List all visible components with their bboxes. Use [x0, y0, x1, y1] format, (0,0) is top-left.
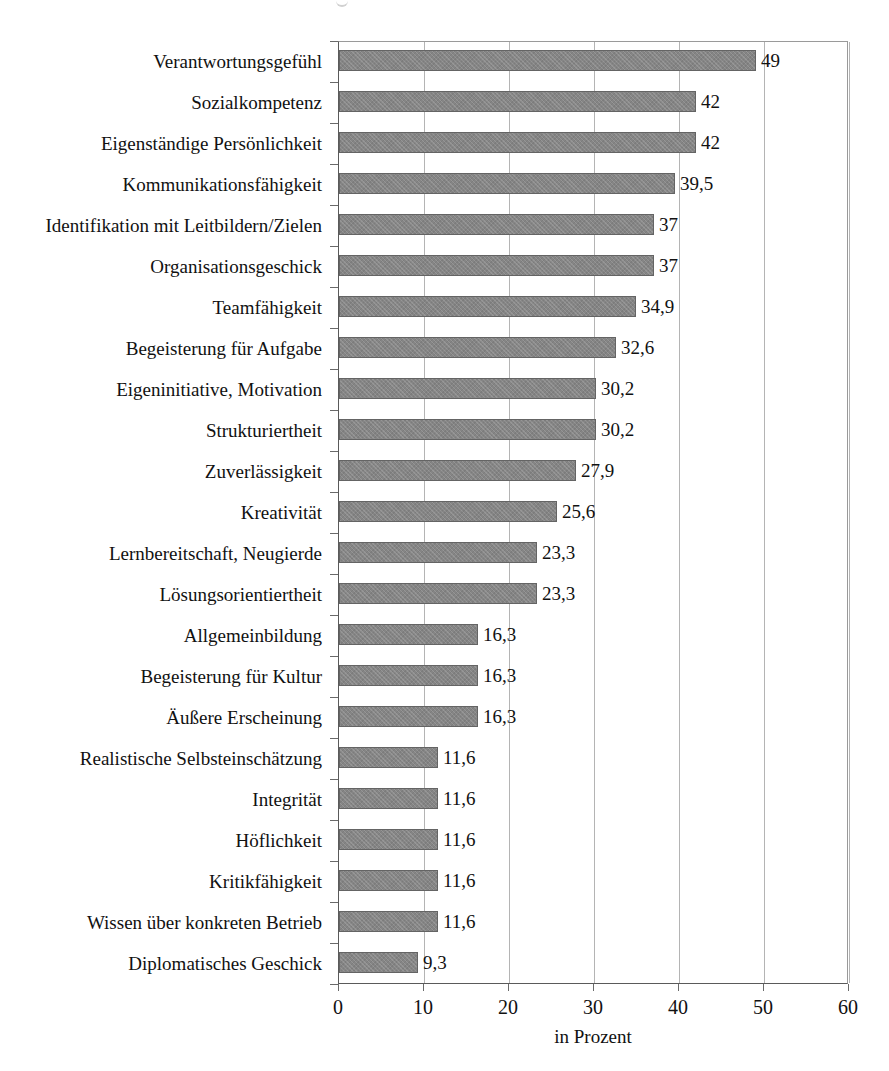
y-axis-tick [330, 820, 338, 821]
bar [339, 214, 654, 235]
y-axis-tick [330, 738, 338, 739]
y-axis-tick [330, 328, 338, 329]
bar [339, 501, 557, 522]
y-axis-label: Allgemeinbildung [0, 615, 330, 656]
bar-value-label: 30,2 [596, 419, 634, 440]
bar-value-label: 11,6 [438, 788, 476, 809]
bar-value-label: 37 [654, 214, 678, 235]
bar [339, 378, 596, 399]
x-axis-tick [338, 984, 339, 991]
bar-value-label: 42 [696, 91, 720, 112]
bar-row: 34,9 [339, 288, 847, 329]
y-axis-label: Lernbereitschaft, Neugierde [0, 533, 330, 574]
x-axis-tick-label: 30 [583, 994, 603, 1020]
y-axis-label: Diplomatisches Geschick [0, 943, 330, 984]
bar [339, 747, 438, 768]
bar [339, 50, 756, 71]
x-axis-tick-label: 40 [668, 994, 688, 1020]
y-axis-label: Verantwortungsgefühl [0, 41, 330, 82]
bar-row: 25,6 [339, 493, 847, 534]
bar-row: 42 [339, 124, 847, 165]
bar-row: 11,6 [339, 862, 847, 903]
bar-row: 9,3 [339, 944, 847, 985]
y-axis-tick [330, 902, 338, 903]
bar-value-label: 39,5 [675, 173, 713, 194]
bar [339, 665, 478, 686]
bar-value-label: 16,3 [478, 665, 516, 686]
bar [339, 829, 438, 850]
y-axis-label: Begeisterung für Kultur [0, 656, 330, 697]
bar-row: 27,9 [339, 452, 847, 493]
bar [339, 542, 537, 563]
bar-value-label: 30,2 [596, 378, 634, 399]
y-axis-label: Eigenständige Persönlichkeit [0, 123, 330, 164]
bar-value-label: 11,6 [438, 829, 476, 850]
bar [339, 460, 576, 481]
scan-artifact [336, 0, 348, 7]
y-axis-tick [330, 533, 338, 534]
x-axis-title: in Prozent [338, 1026, 848, 1048]
y-axis-tick [330, 123, 338, 124]
bar-row: 16,3 [339, 616, 847, 657]
y-axis-tick [330, 615, 338, 616]
bar-row: 32,6 [339, 329, 847, 370]
y-axis-tick [330, 82, 338, 83]
chart-page: VerantwortungsgefühlSozialkompetenzEigen… [0, 0, 889, 1071]
bar-value-label: 23,3 [537, 542, 575, 563]
y-axis-tick [330, 779, 338, 780]
bar-value-label: 9,3 [418, 952, 447, 973]
bar-row: 11,6 [339, 821, 847, 862]
y-axis-tick [330, 205, 338, 206]
y-axis-tick [330, 656, 338, 657]
y-axis-label: Realistische Selbsteinschätzung [0, 738, 330, 779]
y-axis-tick [330, 369, 338, 370]
bar-row: 30,2 [339, 411, 847, 452]
bar [339, 624, 478, 645]
bar [339, 173, 675, 194]
bar-value-label: 11,6 [438, 870, 476, 891]
bar-row: 16,3 [339, 657, 847, 698]
bar-row: 49 [339, 42, 847, 83]
bar [339, 583, 537, 604]
y-axis-label: Kommunikationsfähigkeit [0, 164, 330, 205]
bar-value-label: 49 [756, 50, 780, 71]
bar-value-label: 42 [696, 132, 720, 153]
bar-row: 23,3 [339, 575, 847, 616]
bar [339, 706, 478, 727]
bar-value-label: 34,9 [636, 296, 674, 317]
bar-value-label: 32,6 [616, 337, 654, 358]
y-axis-label: Eigeninitiative, Motivation [0, 369, 330, 410]
bar [339, 337, 616, 358]
x-axis-tick [593, 984, 594, 991]
x-axis-tick [508, 984, 509, 991]
y-axis-tick [330, 164, 338, 165]
y-axis-label: Kritikfähigkeit [0, 861, 330, 902]
bar [339, 952, 418, 973]
x-axis-tick-label: 0 [333, 994, 343, 1020]
bar-value-label: 11,6 [438, 911, 476, 932]
y-axis-tick [330, 41, 338, 42]
y-axis-category-labels: VerantwortungsgefühlSozialkompetenzEigen… [0, 41, 330, 984]
bar [339, 419, 596, 440]
bar-row: 30,2 [339, 370, 847, 411]
y-axis-label: Sozialkompetenz [0, 82, 330, 123]
bar-row: 11,6 [339, 739, 847, 780]
bar [339, 296, 636, 317]
x-axis-tick [763, 984, 764, 991]
y-axis-tick [330, 492, 338, 493]
y-axis-tick [330, 451, 338, 452]
bar-row: 23,3 [339, 534, 847, 575]
y-axis-label: Identifikation mit Leitbildern/Zielen [0, 205, 330, 246]
bar [339, 132, 696, 153]
y-axis-label: Teamfähigkeit [0, 287, 330, 328]
bar-row: 11,6 [339, 780, 847, 821]
y-axis-tick [330, 861, 338, 862]
bar-row: 37 [339, 247, 847, 288]
y-axis-tick [330, 697, 338, 698]
y-axis-label: Integrität [0, 779, 330, 820]
bar-row: 11,6 [339, 903, 847, 944]
bar [339, 255, 654, 276]
bar [339, 870, 438, 891]
y-axis-tick [330, 943, 338, 944]
y-axis-tick [330, 410, 338, 411]
